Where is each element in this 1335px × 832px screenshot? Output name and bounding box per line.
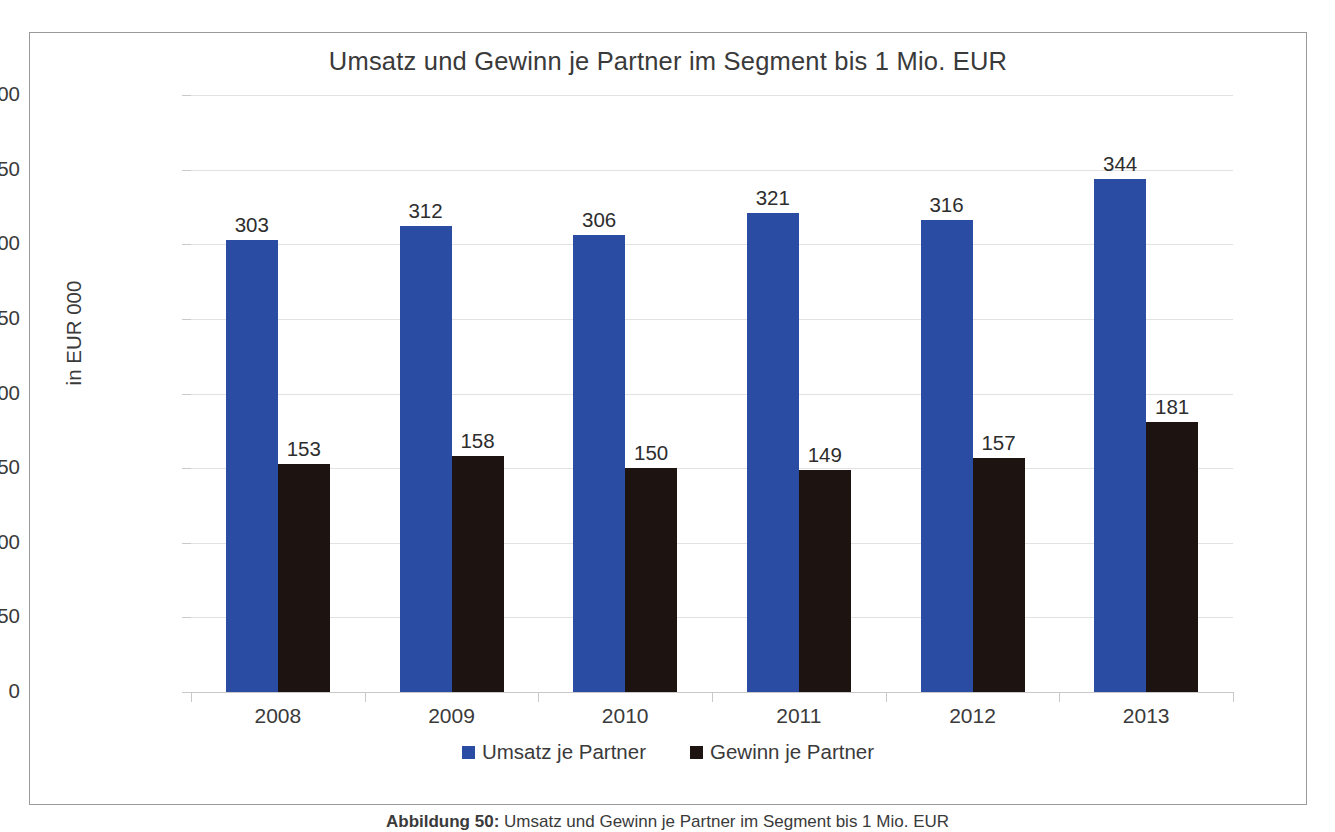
y-axis-title: in EUR 000 [62, 281, 86, 386]
bar-value-label: 316 [907, 193, 987, 217]
gridline [191, 543, 1233, 544]
x-axis-label-2013: 2013 [1059, 704, 1233, 728]
legend-label: Gewinn je Partner [710, 740, 874, 764]
bar-gewinn-2010[interactable] [625, 468, 677, 692]
y-axis-tick-label: 0 [0, 679, 20, 703]
y-axis-tick-label: 100 [0, 530, 20, 554]
x-axis-tick-mark [191, 692, 192, 702]
y-axis-tick-mark [182, 543, 191, 544]
x-axis-tick-mark [712, 692, 713, 702]
legend-swatch-icon [462, 746, 475, 759]
y-axis-tick-mark [182, 244, 191, 245]
bar-value-label: 153 [264, 437, 344, 461]
x-axis-category-labels: 200820092010201120122013 [191, 692, 1233, 726]
bar-group: 316157 [921, 95, 1025, 692]
chart-figure-frame: Umsatz und Gewinn je Partner im Segment … [29, 32, 1307, 805]
gridline [191, 319, 1233, 320]
bar-group: 303153 [226, 95, 330, 692]
legend-swatch-icon [690, 746, 703, 759]
y-axis-tick-mark [182, 692, 191, 693]
bar-gewinn-2013[interactable] [1146, 422, 1198, 692]
bar-value-label: 321 [733, 186, 813, 210]
gridline [191, 95, 1233, 96]
bar-value-label: 181 [1132, 395, 1212, 419]
bar-value-label: 306 [559, 208, 639, 232]
bar-gewinn-2008[interactable] [278, 464, 330, 692]
bar-value-label: 150 [611, 441, 691, 465]
bar-umsatz-2008[interactable] [226, 240, 278, 692]
y-axis-tick-label: 150 [0, 455, 20, 479]
bar-value-label: 157 [959, 431, 1039, 455]
figure-caption: Abbildung 50: Umsatz und Gewinn je Partn… [0, 812, 1335, 832]
y-axis-tick-label: 400 [0, 82, 20, 106]
x-axis-label-2008: 2008 [191, 704, 365, 728]
bar-value-label: 312 [386, 199, 466, 223]
y-axis-tick-mark [182, 170, 191, 171]
y-axis-tick-mark [182, 617, 191, 618]
figure-caption-text: Umsatz und Gewinn je Partner im Segment … [499, 812, 949, 831]
legend-item-umsatz[interactable]: Umsatz je Partner [462, 740, 646, 764]
y-axis-tick-label: 350 [0, 157, 20, 181]
gridline [191, 244, 1233, 245]
x-axis-label-2012: 2012 [886, 704, 1060, 728]
gridline [191, 617, 1233, 618]
x-axis-tick-mark [538, 692, 539, 702]
y-axis-tick-mark [182, 95, 191, 96]
bar-gewinn-2012[interactable] [973, 458, 1025, 692]
x-axis-label-2011: 2011 [712, 704, 886, 728]
gridline [191, 170, 1233, 171]
bar-group: 306150 [573, 95, 677, 692]
y-axis-tick-mark [182, 319, 191, 320]
y-axis-tick-mark [182, 394, 191, 395]
legend-item-gewinn[interactable]: Gewinn je Partner [690, 740, 874, 764]
plot-area: 050100150200250300350400 303153312158306… [191, 95, 1233, 692]
bar-value-label: 303 [212, 213, 292, 237]
y-axis-tick-label: 50 [0, 604, 20, 628]
y-axis-tick-mark [182, 468, 191, 469]
x-axis-label-2010: 2010 [538, 704, 712, 728]
x-axis-tick-mark [365, 692, 366, 702]
gridline [191, 394, 1233, 395]
bar-group: 312158 [400, 95, 504, 692]
x-axis-tick-mark [1233, 692, 1234, 702]
bar-value-label: 149 [785, 443, 865, 467]
bar-gewinn-2009[interactable] [452, 456, 504, 692]
chart-title: Umsatz und Gewinn je Partner im Segment … [30, 47, 1306, 76]
bar-umsatz-2012[interactable] [921, 220, 973, 692]
gridline [191, 468, 1233, 469]
figure-caption-number: Abbildung 50: [386, 812, 499, 831]
legend-label: Umsatz je Partner [482, 740, 646, 764]
y-axis-tick-label: 300 [0, 231, 20, 255]
y-axis-tick-label: 200 [0, 381, 20, 405]
bar-group: 344181 [1094, 95, 1198, 692]
x-axis-tick-mark [1059, 692, 1060, 702]
y-axis-tick-label: 250 [0, 306, 20, 330]
bar-umsatz-2009[interactable] [400, 226, 452, 692]
bar-value-label: 158 [438, 429, 518, 453]
bar-gewinn-2011[interactable] [799, 470, 851, 692]
chart-legend: Umsatz je PartnerGewinn je Partner [30, 740, 1306, 764]
bar-group: 321149 [747, 95, 851, 692]
x-axis-tick-mark [886, 692, 887, 702]
bar-value-label: 344 [1080, 152, 1160, 176]
x-axis-label-2009: 2009 [365, 704, 539, 728]
bar-umsatz-2013[interactable] [1094, 179, 1146, 692]
